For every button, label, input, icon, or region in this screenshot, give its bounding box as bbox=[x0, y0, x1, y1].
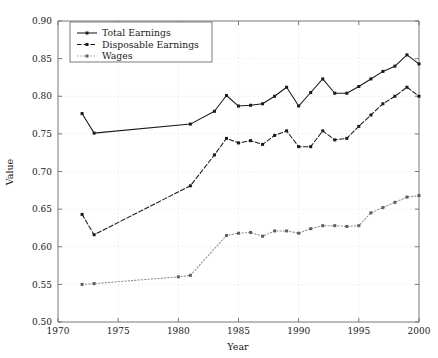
data-point bbox=[393, 65, 396, 68]
legend-marker bbox=[86, 32, 89, 35]
data-point bbox=[81, 112, 84, 115]
data-point bbox=[213, 153, 216, 156]
data-point bbox=[297, 105, 300, 108]
series-line bbox=[82, 55, 419, 133]
data-point bbox=[357, 125, 360, 128]
legend-marker bbox=[86, 43, 89, 46]
data-point bbox=[249, 231, 252, 234]
y-tick-label: 0.90 bbox=[32, 16, 52, 26]
grid-lines bbox=[58, 21, 419, 322]
data-point bbox=[237, 232, 240, 235]
y-axis-title: Value bbox=[4, 158, 15, 186]
data-point bbox=[273, 229, 276, 232]
line-chart: 0.500.550.600.650.700.750.800.850.90 197… bbox=[0, 0, 438, 358]
data-point bbox=[249, 139, 252, 142]
data-point bbox=[81, 213, 84, 216]
data-point bbox=[273, 95, 276, 98]
x-tick-label: 1995 bbox=[347, 326, 370, 336]
data-point bbox=[357, 85, 360, 88]
data-point bbox=[309, 145, 312, 148]
y-tick-label: 0.70 bbox=[32, 167, 52, 177]
data-point bbox=[93, 282, 96, 285]
data-point bbox=[93, 233, 96, 236]
data-point bbox=[418, 62, 421, 65]
data-point bbox=[225, 94, 228, 97]
series-total-earnings bbox=[81, 53, 421, 134]
data-point bbox=[297, 232, 300, 235]
data-point bbox=[297, 145, 300, 148]
data-point bbox=[345, 137, 348, 140]
data-point bbox=[81, 283, 84, 286]
y-tick-label: 0.65 bbox=[32, 204, 52, 214]
data-point bbox=[333, 92, 336, 95]
x-tick-label: 1970 bbox=[47, 326, 70, 336]
data-point bbox=[249, 104, 252, 107]
data-point bbox=[189, 184, 192, 187]
data-point bbox=[225, 234, 228, 237]
data-point bbox=[393, 201, 396, 204]
data-point bbox=[357, 224, 360, 227]
data-point bbox=[369, 211, 372, 214]
y-tick-label: 0.80 bbox=[32, 91, 52, 101]
data-point bbox=[333, 224, 336, 227]
x-axis-tick-labels: 1970197519801985199019952000 bbox=[47, 326, 431, 336]
series-line bbox=[82, 87, 419, 234]
data-point bbox=[189, 274, 192, 277]
legend-label: Disposable Earnings bbox=[102, 39, 199, 50]
data-point bbox=[309, 227, 312, 230]
legend-label: Wages bbox=[102, 50, 133, 61]
data-point bbox=[213, 110, 216, 113]
data-point bbox=[321, 129, 324, 132]
y-tick-label: 0.85 bbox=[32, 54, 52, 64]
data-point bbox=[189, 123, 192, 126]
data-point bbox=[273, 134, 276, 137]
x-tick-label: 1990 bbox=[287, 326, 310, 336]
data-point bbox=[285, 129, 288, 132]
data-point bbox=[93, 132, 96, 135]
y-tick-label: 0.55 bbox=[32, 280, 52, 290]
x-tick-label: 1975 bbox=[107, 326, 130, 336]
legend-label: Total Earnings bbox=[102, 27, 171, 38]
x-tick-label: 1985 bbox=[227, 326, 250, 336]
series-wages bbox=[81, 194, 421, 286]
chart-canvas: 0.500.550.600.650.700.750.800.850.90 197… bbox=[0, 0, 438, 358]
data-point bbox=[405, 86, 408, 89]
data-point bbox=[405, 53, 408, 56]
data-point bbox=[261, 235, 264, 238]
x-tick-label: 2000 bbox=[408, 326, 431, 336]
data-point bbox=[309, 91, 312, 94]
data-point bbox=[225, 137, 228, 140]
y-axis-tick-labels: 0.500.550.600.650.700.750.800.850.90 bbox=[32, 16, 52, 327]
data-point bbox=[345, 225, 348, 228]
legend-marker bbox=[86, 55, 89, 58]
x-axis-title: Year bbox=[226, 341, 249, 352]
data-point bbox=[405, 196, 408, 199]
data-point bbox=[237, 141, 240, 144]
data-point bbox=[418, 95, 421, 98]
data-point bbox=[369, 114, 372, 117]
data-point bbox=[261, 102, 264, 105]
data-point bbox=[333, 138, 336, 141]
data-point bbox=[321, 77, 324, 80]
data-point bbox=[261, 143, 264, 146]
data-point bbox=[381, 206, 384, 209]
data-point bbox=[418, 194, 421, 197]
data-point bbox=[177, 275, 180, 278]
data-point bbox=[345, 92, 348, 95]
y-tick-label: 0.75 bbox=[32, 129, 52, 139]
x-tick-label: 1980 bbox=[167, 326, 190, 336]
data-point bbox=[285, 229, 288, 232]
data-point bbox=[285, 86, 288, 89]
chart-legend: Total EarningsDisposable EarningsWages bbox=[70, 22, 212, 62]
data-point bbox=[393, 95, 396, 98]
data-point bbox=[321, 224, 324, 227]
data-series-layer bbox=[81, 53, 421, 286]
y-tick-label: 0.60 bbox=[32, 242, 52, 252]
data-point bbox=[381, 102, 384, 105]
data-point bbox=[369, 77, 372, 80]
data-point bbox=[237, 105, 240, 108]
data-point bbox=[381, 70, 384, 73]
